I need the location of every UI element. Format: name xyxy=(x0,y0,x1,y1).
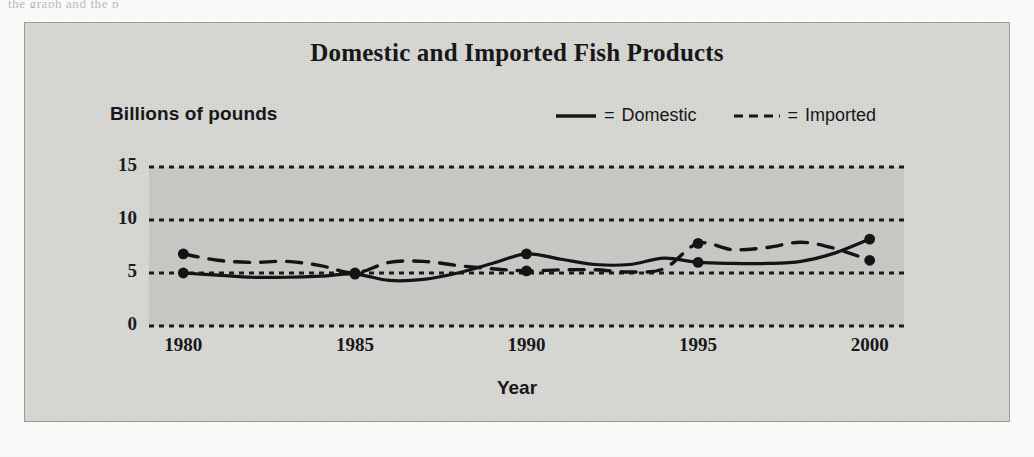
cropped-page-text: the graph and the p xyxy=(8,0,388,8)
x-tick-label: 1995 xyxy=(653,334,743,356)
x-tick-label: 1985 xyxy=(310,334,400,356)
y-tick-label: 0 xyxy=(97,313,137,335)
scanned-page: the graph and the p Domestic and Importe… xyxy=(0,0,1034,457)
y-tick-label: 15 xyxy=(97,154,137,176)
x-tick-label: 1980 xyxy=(138,334,228,356)
y-tick-label: 5 xyxy=(97,260,137,282)
chart-figure: Domestic and Imported Fish Products Bill… xyxy=(24,22,1010,422)
x-tick-label: 1990 xyxy=(482,334,572,356)
plot-area xyxy=(25,23,1010,422)
y-tick-label: 10 xyxy=(97,207,137,229)
x-tick-label: 2000 xyxy=(825,334,915,356)
x-axis-title: Year xyxy=(25,377,1009,399)
